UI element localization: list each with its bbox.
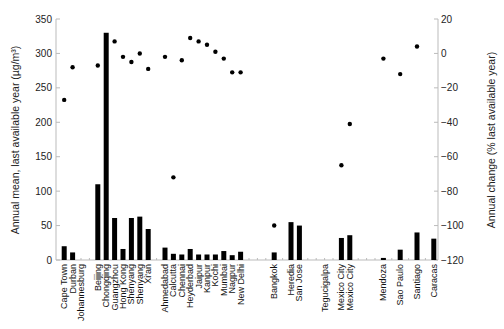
data-point xyxy=(146,67,150,71)
data-point xyxy=(121,55,125,59)
data-point xyxy=(230,70,234,74)
y-tick-label-left: 300 xyxy=(35,48,52,59)
category-label: Mendoza xyxy=(378,264,388,301)
bar xyxy=(137,217,142,260)
y-tick-label-right: −120 xyxy=(441,255,464,266)
data-point xyxy=(222,56,226,60)
bar xyxy=(297,226,302,260)
data-point xyxy=(381,56,385,60)
data-point xyxy=(129,60,133,64)
category-label: New Delhi xyxy=(236,264,246,305)
data-point xyxy=(96,63,100,67)
data-point xyxy=(70,65,74,69)
chart: 050100150200250300350200−20−40−60−80−100… xyxy=(0,0,504,329)
category-labels: Cape TownDurbanJohannesburgBeijingChongq… xyxy=(59,264,439,322)
bar xyxy=(230,255,235,260)
bar xyxy=(104,33,109,260)
category-label: Bangkok xyxy=(269,264,279,300)
y-tick-label-left: 0 xyxy=(46,255,52,266)
bar xyxy=(112,218,117,260)
y-tick-label-right: −60 xyxy=(441,151,458,162)
bar xyxy=(62,246,67,260)
bar xyxy=(339,238,344,260)
bar xyxy=(221,251,226,260)
data-point xyxy=(205,43,209,47)
data-point xyxy=(213,50,217,54)
data-point xyxy=(112,39,116,43)
y-axis-title-right: Annual change (% last available year) xyxy=(485,52,497,228)
y-tick-label-left: 150 xyxy=(35,151,52,162)
bar xyxy=(121,249,126,260)
bar xyxy=(213,254,218,260)
y-tick-label-right: 0 xyxy=(441,48,447,59)
data-point xyxy=(238,70,242,74)
data-point xyxy=(415,44,419,48)
y-tick-label-left: 250 xyxy=(35,82,52,93)
category-label: Santiago xyxy=(412,264,422,300)
category-label: Johannesburg xyxy=(76,264,86,321)
data-point xyxy=(196,39,200,43)
data-point xyxy=(62,98,66,102)
data-point xyxy=(348,122,352,126)
bar xyxy=(146,229,151,260)
bar-series xyxy=(62,33,437,260)
data-point xyxy=(138,51,142,55)
bar xyxy=(205,254,210,260)
bar xyxy=(398,250,403,260)
y-tick-label-right: −80 xyxy=(441,186,458,197)
scatter-series xyxy=(62,36,419,228)
category-label: Xi'an xyxy=(143,264,153,284)
data-point xyxy=(171,175,175,179)
bar xyxy=(129,218,134,260)
y-axis-title-left: Annual mean, last available year (µg/m³) xyxy=(9,46,21,235)
y-tick-label-left: 100 xyxy=(35,186,52,197)
y-tick-label-left: 350 xyxy=(35,14,52,25)
data-point xyxy=(180,58,184,62)
category-label: Sao Paulo xyxy=(395,264,405,306)
y-tick-label-right: 20 xyxy=(441,14,453,25)
y-tick-label-left: 50 xyxy=(41,220,53,231)
bar xyxy=(272,252,277,260)
bar xyxy=(289,222,294,260)
bar xyxy=(95,184,100,260)
category-label: Mexico City xyxy=(345,264,355,311)
data-point xyxy=(163,55,167,59)
bar xyxy=(188,249,193,260)
y-tick-label-left: 200 xyxy=(35,117,52,128)
bar xyxy=(381,258,386,260)
bar xyxy=(179,254,184,260)
bar xyxy=(70,252,75,260)
y-tick-label-right: −100 xyxy=(441,220,464,231)
y-tick-label-right: −20 xyxy=(441,82,458,93)
bar xyxy=(347,235,352,260)
bar xyxy=(238,252,243,260)
data-point xyxy=(339,163,343,167)
data-point xyxy=(272,223,276,227)
category-label: Tegucigalpa xyxy=(320,264,330,312)
bar xyxy=(171,254,176,260)
category-label: Caracas xyxy=(429,264,439,298)
data-point xyxy=(398,72,402,76)
data-point xyxy=(188,36,192,40)
bar xyxy=(415,232,420,260)
bar xyxy=(163,248,168,260)
bar xyxy=(431,239,436,260)
bar xyxy=(196,254,201,260)
y-tick-label-right: −40 xyxy=(441,117,458,128)
category-label: San Jose xyxy=(294,264,304,302)
